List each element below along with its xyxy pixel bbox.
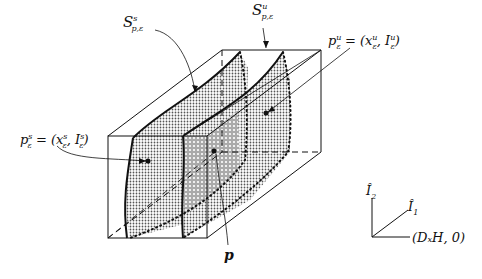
stable-manifold-label: Ssp,ε	[123, 15, 143, 33]
unstable-point-label: puε = (xuε, Iuε)	[328, 34, 400, 51]
point-p-label: p	[224, 248, 234, 262]
axis-i1-label: Î1	[408, 200, 418, 217]
point-unstable	[264, 111, 269, 116]
unstable-manifold-label: Sup,ε	[252, 3, 273, 21]
diagram-canvas: Ssp,ε Sup,ε puε = (xuε, Iuε) psε = (xsε,…	[0, 0, 482, 279]
point-p	[212, 149, 217, 154]
coordinate-axes	[372, 198, 410, 237]
point-stable	[146, 159, 151, 164]
arrowhead	[263, 41, 269, 48]
stable-point-label: psε = (xsε, Isε)	[20, 133, 89, 150]
axis-i2-label: Î2	[366, 184, 376, 201]
axis-horizontal-label: (DₓH, 0)	[412, 231, 465, 244]
